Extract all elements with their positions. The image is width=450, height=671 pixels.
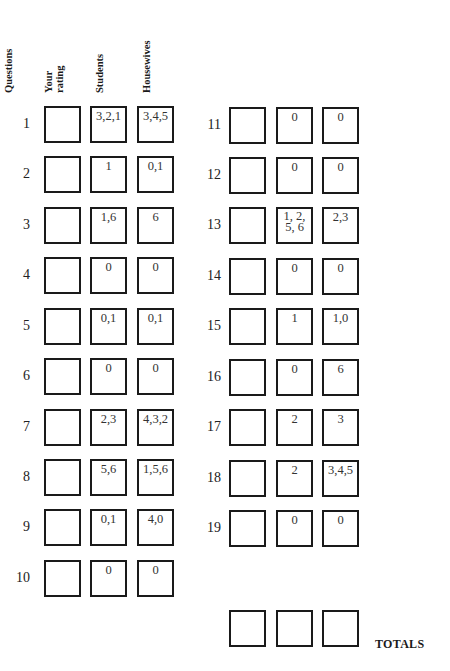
students-value: 0 [278, 111, 311, 123]
question-number: 10 [8, 570, 30, 586]
header-questions: Questions [14, 92, 15, 93]
housewives-box: 1,5,6 [137, 459, 174, 496]
header-housewives: Housewives [152, 92, 153, 93]
students-box: 0 [276, 157, 313, 194]
housewives-box: 1,0 [322, 308, 359, 345]
your-rating-box[interactable] [229, 409, 266, 446]
students-value: 1, 2, 5, 6 [278, 211, 311, 233]
your-rating-box[interactable] [229, 359, 266, 396]
question-number: 4 [8, 267, 30, 283]
housewives-box: 0 [322, 157, 359, 194]
students-value: 0 [92, 564, 125, 576]
your-rating-box[interactable] [44, 358, 81, 395]
totals-students-box[interactable] [276, 610, 313, 647]
students-box: 0 [276, 359, 313, 396]
students-box: 2 [276, 409, 313, 446]
question-number: 8 [8, 469, 30, 485]
housewives-box: 3,4,5 [137, 106, 174, 143]
students-value: 3,2,1 [92, 110, 125, 122]
header-questions-label: Questions [4, 49, 14, 93]
your-rating-box[interactable] [44, 560, 81, 597]
housewives-value: 6 [324, 363, 357, 375]
question-number: 12 [199, 167, 221, 183]
question-number: 14 [199, 268, 221, 284]
question-number: 16 [199, 369, 221, 385]
housewives-box: 0 [322, 258, 359, 295]
your-rating-box[interactable] [229, 460, 266, 497]
housewives-box: 4,0 [137, 509, 174, 546]
housewives-value: 3 [324, 413, 357, 425]
students-box: 2 [276, 460, 313, 497]
housewives-value: 3,4,5 [139, 110, 172, 122]
your-rating-box[interactable] [229, 510, 266, 547]
your-rating-box[interactable] [44, 106, 81, 143]
housewives-box: 6 [137, 207, 174, 244]
your-rating-box[interactable] [44, 509, 81, 546]
question-number: 19 [199, 520, 221, 536]
header-your-rating-2: rating [65, 92, 66, 93]
your-rating-box[interactable] [44, 459, 81, 496]
students-value: 0 [278, 161, 311, 173]
question-number: 1 [8, 116, 30, 132]
your-rating-box[interactable] [44, 308, 81, 345]
students-box: 0 [90, 560, 127, 597]
housewives-box: 3 [322, 409, 359, 446]
your-rating-box[interactable] [229, 157, 266, 194]
question-number: 2 [8, 166, 30, 182]
your-rating-box[interactable] [229, 107, 266, 144]
students-box: 1 [90, 156, 127, 193]
students-value: 2,3 [92, 413, 125, 425]
your-rating-box[interactable] [44, 257, 81, 294]
students-value: 2 [278, 464, 311, 476]
your-rating-box[interactable] [44, 156, 81, 193]
housewives-value: 1,0 [324, 312, 357, 324]
housewives-box: 0 [322, 107, 359, 144]
housewives-value: 0 [139, 564, 172, 576]
students-value: 0,1 [92, 312, 125, 324]
housewives-value: 0 [324, 262, 357, 274]
housewives-value: 0 [139, 261, 172, 273]
question-number: 18 [199, 470, 221, 486]
housewives-value: 0,1 [139, 160, 172, 172]
your-rating-box[interactable] [44, 409, 81, 446]
housewives-box: 0 [322, 510, 359, 547]
students-box: 5,6 [90, 459, 127, 496]
students-box: 1, 2, 5, 6 [276, 207, 313, 244]
students-value: 1 [278, 312, 311, 324]
students-value: 1 [92, 160, 125, 172]
housewives-box: 4,3,2 [137, 409, 174, 446]
totals-your-rating-box[interactable] [229, 610, 266, 647]
your-rating-box[interactable] [229, 207, 266, 244]
students-value: 0 [278, 514, 311, 526]
header-housewives-label: Housewives [142, 41, 152, 94]
students-value: 5,6 [92, 463, 125, 475]
question-number: 17 [199, 419, 221, 435]
housewives-value: 0 [139, 362, 172, 374]
housewives-value: 4,0 [139, 513, 172, 525]
header-students-label: Students [95, 54, 105, 93]
students-box: 0,1 [90, 509, 127, 546]
totals-label: TOTALS [375, 637, 424, 652]
students-box: 2,3 [90, 409, 127, 446]
housewives-value: 0 [324, 514, 357, 526]
housewives-value: 4,3,2 [139, 413, 172, 425]
housewives-value: 0 [324, 111, 357, 123]
students-box: 0 [276, 510, 313, 547]
header-students: Students [105, 92, 106, 93]
students-box: 0 [90, 257, 127, 294]
housewives-value: 0,1 [139, 312, 172, 324]
students-value: 0,1 [92, 513, 125, 525]
your-rating-box[interactable] [229, 258, 266, 295]
students-box: 0 [276, 107, 313, 144]
students-box: 0 [90, 358, 127, 395]
housewives-box: 6 [322, 359, 359, 396]
totals-housewives-box[interactable] [322, 610, 359, 647]
housewives-value: 6 [139, 211, 172, 223]
housewives-box: 0,1 [137, 308, 174, 345]
header-your-rating-line2: rating [55, 66, 65, 93]
students-value: 2 [278, 413, 311, 425]
housewives-box: 0 [137, 560, 174, 597]
your-rating-box[interactable] [229, 308, 266, 345]
your-rating-box[interactable] [44, 207, 81, 244]
question-number: 5 [8, 318, 30, 334]
